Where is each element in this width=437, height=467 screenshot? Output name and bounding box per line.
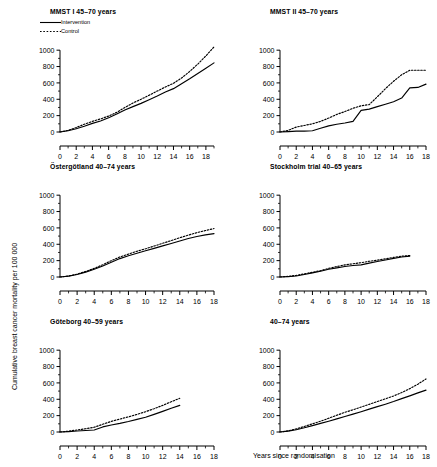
x-tick-label: 2: [294, 453, 298, 460]
x-tick-label: 14: [390, 453, 398, 460]
x-tick-label: 18: [422, 453, 430, 460]
plot-area: 02004006008001000024681012141618: [248, 336, 430, 458]
y-tick-label: 0: [271, 429, 275, 436]
x-tick-label: 14: [390, 153, 398, 160]
x-tick-label: 16: [186, 153, 194, 160]
y-tick-label: 0: [271, 129, 275, 136]
panel-40-74: 40–74 years 0200400600800100002468101214…: [248, 318, 430, 467]
x-tick-label: 8: [343, 153, 347, 160]
y-tick-label: 200: [43, 257, 55, 264]
x-tick-label: 12: [373, 453, 381, 460]
y-tick-label: 200: [263, 112, 275, 119]
x-tick-label: 2: [75, 298, 79, 305]
series-line-intervention: [280, 390, 426, 432]
x-tick-label: 4: [310, 453, 314, 460]
y-tick-label: 800: [263, 63, 275, 70]
y-tick-label: 1000: [259, 47, 275, 54]
y-axis-title: Cumulative breast cancer mortality per 1…: [11, 243, 18, 390]
panel-title: 40–74 years: [270, 318, 310, 325]
x-tick-label: 2: [75, 453, 79, 460]
panel-title: MMST I 45–70 years: [50, 8, 116, 15]
y-tick-label: 1000: [39, 347, 55, 354]
y-tick-label: 400: [263, 96, 275, 103]
series-line-control: [60, 47, 214, 132]
x-tick-label: 10: [357, 153, 365, 160]
x-tick-label: 8: [126, 298, 130, 305]
x-tick-label: 4: [92, 453, 96, 460]
x-tick-label: 0: [58, 453, 62, 460]
panel-title: Stockholm trial 40–65 years: [270, 163, 362, 170]
x-tick-label: 6: [327, 153, 331, 160]
x-tick-label: 4: [92, 298, 96, 305]
y-tick-label: 800: [43, 208, 55, 215]
y-tick-label: 1000: [39, 47, 55, 54]
x-tick-label: 0: [278, 153, 282, 160]
x-tick-label: 8: [343, 298, 347, 305]
x-tick-label: 6: [109, 453, 113, 460]
plot-area: 02004006008001000024681012141618: [248, 36, 430, 158]
panel-goteborg: Göteborg 40–59 years 0200400600800100002…: [28, 318, 218, 467]
y-tick-label: 1000: [259, 192, 275, 199]
plot-area: 02004006008001000024681012141618: [28, 36, 218, 158]
x-tick-label: 10: [142, 298, 150, 305]
y-tick-label: 200: [43, 412, 55, 419]
y-tick-label: 800: [263, 363, 275, 370]
y-tick-label: 600: [43, 225, 55, 232]
y-tick-label: 0: [271, 274, 275, 281]
x-tick-label: 16: [406, 453, 414, 460]
plot-area: 02004006008001000024681012141618: [28, 336, 218, 458]
x-tick-label: 6: [107, 153, 111, 160]
y-tick-label: 0: [51, 274, 55, 281]
y-tick-label: 800: [263, 208, 275, 215]
x-tick-label: 4: [310, 153, 314, 160]
x-tick-label: 8: [343, 453, 347, 460]
panel-title: Östergötland 40–74 years: [50, 163, 135, 170]
plot-area: 02004006008001000024681012141618: [248, 181, 430, 303]
x-tick-label: 12: [373, 153, 381, 160]
x-tick-label: 18: [422, 298, 430, 305]
panel-title: Göteborg 40–59 years: [50, 318, 123, 325]
x-tick-label: 8: [126, 453, 130, 460]
x-tick-label: 12: [159, 453, 167, 460]
y-tick-label: 400: [263, 241, 275, 248]
y-tick-label: 600: [43, 80, 55, 87]
y-tick-label: 200: [263, 257, 275, 264]
series-line-control: [280, 379, 426, 432]
series-line-control: [60, 398, 180, 432]
y-tick-label: 400: [263, 396, 275, 403]
x-tick-label: 10: [137, 153, 145, 160]
y-tick-label: 400: [43, 241, 55, 248]
y-tick-label: 800: [43, 63, 55, 70]
x-tick-label: 16: [406, 153, 414, 160]
x-tick-label: 12: [159, 298, 167, 305]
series-line-intervention: [60, 234, 214, 277]
x-tick-label: 4: [90, 153, 94, 160]
x-tick-label: 6: [327, 453, 331, 460]
x-tick-label: 0: [278, 453, 282, 460]
x-tick-label: 10: [357, 453, 365, 460]
x-tick-label: 6: [327, 298, 331, 305]
x-tick-label: 16: [406, 298, 414, 305]
x-tick-label: 4: [310, 298, 314, 305]
panel-mmst-ii: MMST II 45–70 years 02004006008001000024…: [248, 8, 430, 158]
x-tick-label: 10: [357, 298, 365, 305]
figure-multipanel-chart: Cumulative breast cancer mortality per 1…: [0, 0, 437, 467]
x-tick-label: 16: [193, 453, 201, 460]
x-tick-label: 6: [109, 298, 113, 305]
x-tick-label: 10: [142, 453, 150, 460]
plot-area: 02004006008001000024681012141618: [28, 181, 218, 303]
y-tick-label: 600: [263, 225, 275, 232]
x-tick-label: 8: [123, 153, 127, 160]
panel-stockholm: Stockholm trial 40–65 years 020040060080…: [248, 163, 430, 313]
x-tick-label: 2: [294, 153, 298, 160]
series-line-intervention: [60, 63, 214, 132]
x-tick-label: 16: [193, 298, 201, 305]
x-tick-label: 14: [176, 453, 184, 460]
x-tick-label: 14: [176, 298, 184, 305]
x-tick-label: 14: [390, 298, 398, 305]
x-tick-label: 0: [278, 298, 282, 305]
panel-ostergotland: Östergötland 40–74 years 020040060080010…: [28, 163, 218, 313]
x-tick-label: 2: [294, 298, 298, 305]
x-tick-label: 18: [210, 453, 218, 460]
x-tick-label: 0: [58, 298, 62, 305]
